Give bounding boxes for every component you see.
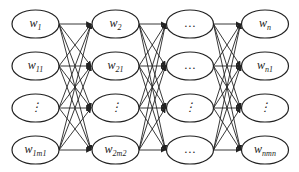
node-symbol: w — [109, 16, 117, 30]
node-subscript: n — [267, 23, 271, 32]
node-symbol: w — [25, 142, 33, 156]
connection-edges — [59, 24, 241, 150]
node-symbol: w — [107, 58, 115, 72]
node-label: w2 — [92, 16, 140, 35]
node-label: wnmn — [241, 142, 289, 161]
node-label: wn — [241, 16, 289, 35]
node-symbol: w — [259, 16, 267, 30]
node-label: … — [166, 142, 214, 156]
node-subscript: 2 — [118, 23, 122, 32]
node-subscript: n1 — [265, 65, 273, 74]
node-symbol: w — [105, 142, 113, 156]
node-label: wn1 — [241, 58, 289, 77]
node-subscript: 1m1 — [33, 149, 47, 158]
node-symbol: … — [185, 16, 196, 30]
node-subscript: nmn — [262, 149, 276, 158]
node-subscript: 11 — [36, 65, 43, 74]
node-symbol: … — [185, 58, 196, 72]
node-label: ⋮ — [166, 100, 214, 114]
node-label: w1 — [12, 16, 60, 35]
node-label: ⋮ — [241, 100, 289, 114]
node-symbol: … — [185, 142, 196, 156]
node-label: w1m1 — [12, 142, 60, 161]
node-label: w21 — [92, 58, 140, 77]
node-symbol: ⋮ — [110, 100, 122, 114]
node-symbol: w — [257, 58, 265, 72]
node-symbol: ⋮ — [184, 100, 196, 114]
node-symbol: w — [28, 58, 36, 72]
node-label: w11 — [12, 58, 60, 77]
node-symbol: w — [29, 16, 37, 30]
node-symbol: ⋮ — [30, 100, 42, 114]
node-subscript: 2m2 — [113, 149, 127, 158]
node-subscript: 1 — [38, 23, 42, 32]
node-symbol: ⋮ — [259, 100, 271, 114]
node-label: ⋮ — [12, 100, 60, 114]
node-label: … — [166, 16, 214, 30]
node-symbol: w — [254, 142, 262, 156]
node-label: w2m2 — [92, 142, 140, 161]
node-label: ⋮ — [92, 100, 140, 114]
node-subscript: 21 — [116, 65, 124, 74]
node-label: … — [166, 58, 214, 72]
